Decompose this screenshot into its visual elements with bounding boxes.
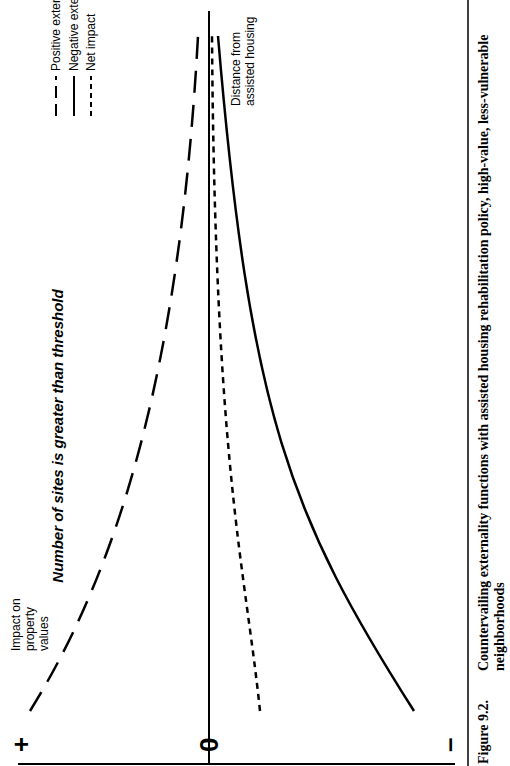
x-axis-label: Distance fromassisted housing: [229, 17, 257, 106]
caption-line-1: Countervailing externality functions wit…: [476, 35, 491, 671]
legend: Positive externalities Negative external…: [49, 0, 98, 116]
legend-negative: Negative externalities: [67, 0, 81, 71]
y-tick-minus: –: [434, 738, 464, 752]
figure-label: Figure 9.2.: [476, 700, 491, 764]
chart-title: Number of sites is greater than threshol…: [49, 288, 66, 582]
y-tick-plus: +: [6, 737, 36, 752]
y-axis-label: Impact onpropertyvalues: [9, 598, 51, 651]
chart: Number of sites is greater than threshol…: [0, 0, 510, 766]
caption-line-2: neighborhoods: [492, 582, 507, 671]
series-net-impact: [212, 36, 260, 711]
legend-net: Net impact: [84, 13, 98, 71]
y-tick-zero: 0: [194, 738, 224, 752]
legend-positive: Positive externalities: [49, 0, 63, 71]
figure: Number of sites is greater than threshol…: [0, 0, 510, 766]
